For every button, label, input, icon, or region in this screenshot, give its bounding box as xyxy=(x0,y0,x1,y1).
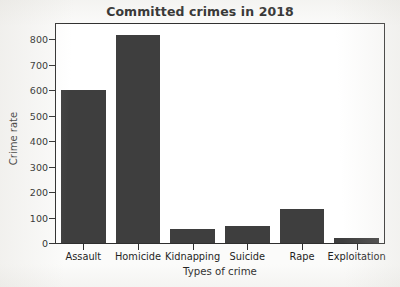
bar-exploitation xyxy=(334,238,379,243)
y-tick-label: 200 xyxy=(30,187,48,198)
bar-rape xyxy=(280,209,325,243)
bar-suicide xyxy=(225,226,270,243)
x-tick-label-exploitation: Exploitation xyxy=(328,251,386,262)
y-tick-mark xyxy=(49,116,55,117)
bar-chart-figure: Committed crimes in 2018 Crime rate 0100… xyxy=(0,0,400,287)
y-tick-mark xyxy=(49,90,55,91)
y-tick-label: 800 xyxy=(30,34,48,45)
y-tick-mark xyxy=(49,141,55,142)
y-tick-mark xyxy=(49,65,55,66)
x-tick-label-rape: Rape xyxy=(290,251,315,262)
bar-series xyxy=(56,24,384,243)
y-tick-label: 600 xyxy=(30,85,48,96)
y-tick-mark xyxy=(49,192,55,193)
x-tick-mark xyxy=(247,244,248,250)
x-tick-label-kidnapping: Kidnapping xyxy=(165,251,220,262)
x-tick-mark xyxy=(302,244,303,250)
bar-kidnapping xyxy=(170,229,215,244)
x-tick-label-homicide: Homicide xyxy=(115,251,161,262)
y-axis-label: Crime rate xyxy=(8,99,19,179)
y-tick-mark xyxy=(49,167,55,168)
y-tick-label: 100 xyxy=(30,212,48,223)
y-tick-label: 300 xyxy=(30,161,48,172)
bar-homicide xyxy=(116,35,161,243)
x-tick-mark xyxy=(193,244,194,250)
x-axis-label: Types of crime xyxy=(55,266,385,277)
chart-title: Committed crimes in 2018 xyxy=(0,4,400,19)
y-tick-label: 500 xyxy=(30,110,48,121)
y-tick-mark xyxy=(49,218,55,219)
y-tick-label: 700 xyxy=(30,59,48,70)
y-tick-label: 400 xyxy=(30,136,48,147)
y-tick-mark xyxy=(49,39,55,40)
x-tick-mark xyxy=(138,244,139,250)
x-tick-mark xyxy=(357,244,358,250)
y-tick-mark xyxy=(49,243,55,244)
bar-assault xyxy=(61,90,106,243)
y-tick-label: 0 xyxy=(42,238,48,249)
x-tick-mark xyxy=(83,244,84,250)
x-tick-label-assault: Assault xyxy=(65,251,101,262)
x-tick-label-suicide: Suicide xyxy=(230,251,266,262)
